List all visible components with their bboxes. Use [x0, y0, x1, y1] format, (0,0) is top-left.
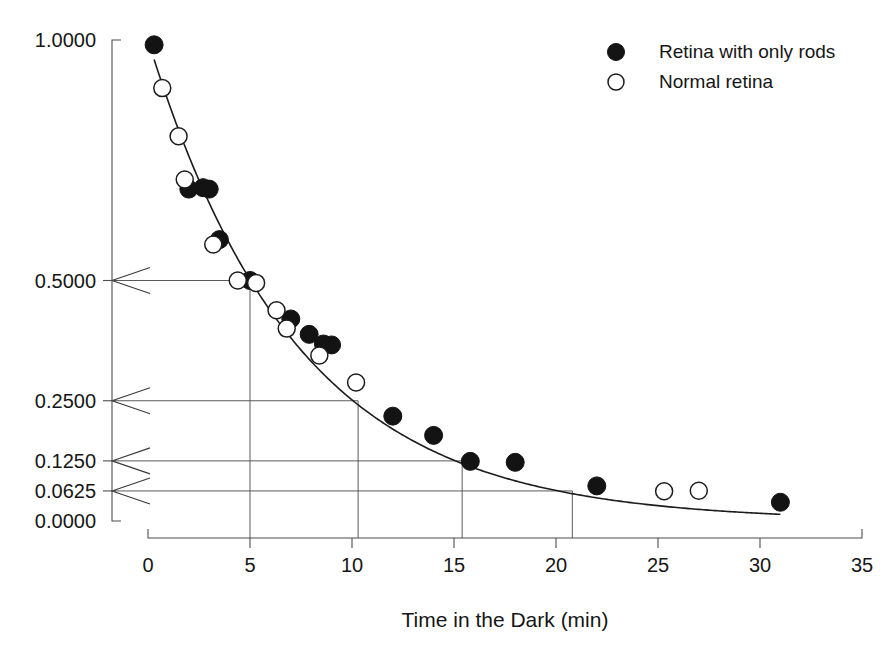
x-axis-tick-label: 15 — [443, 554, 465, 576]
half-life-guide — [112, 388, 358, 538]
half-life-guide — [112, 448, 462, 538]
data-point — [145, 36, 163, 54]
legend-label: Normal retina — [659, 71, 773, 92]
data-point — [588, 477, 606, 495]
legend-open-circle-icon — [608, 74, 624, 90]
legend-entry: Retina with only rods — [608, 41, 836, 62]
data-point — [229, 272, 246, 289]
half-life-guide — [112, 478, 572, 538]
x-axis-tick-label: 20 — [545, 554, 567, 576]
y-axis-tick-label: 0.0000 — [35, 510, 96, 532]
legend-layer: Retina with only rodsNormal retina — [608, 41, 836, 92]
data-point — [771, 493, 789, 511]
data-point — [170, 128, 187, 145]
guide-annotations-layer — [112, 268, 572, 539]
half-life-guide — [112, 268, 250, 539]
data-point — [248, 274, 265, 291]
data-point — [268, 302, 285, 319]
data-point — [205, 236, 222, 253]
x-axis-spine — [148, 529, 862, 538]
y-axis-tick-label: 0.1250 — [35, 450, 96, 472]
data-point — [176, 171, 193, 188]
y-axis-tick-label: 1.0000 — [35, 29, 96, 51]
legend-label: Retina with only rods — [659, 41, 835, 62]
data-point — [278, 320, 295, 337]
data-point — [154, 80, 171, 97]
legend-filled-circle-icon — [608, 44, 625, 61]
data-point — [384, 407, 402, 425]
y-axis-tick-label: 0.2500 — [35, 390, 96, 412]
data-point — [690, 482, 707, 499]
data-point — [348, 374, 365, 391]
x-axis-tick-label: 25 — [647, 554, 669, 576]
x-axis-tick-label: 30 — [749, 554, 771, 576]
legend-entry: Normal retina — [608, 71, 773, 92]
x-axis-tick-label: 10 — [341, 554, 363, 576]
data-point — [656, 483, 673, 500]
data-point — [506, 453, 524, 471]
data-points-layer — [145, 36, 789, 511]
axes-layer — [103, 40, 862, 548]
chart-canvas: Retina with only rodsNormal retina 0.000… — [0, 0, 896, 653]
x-axis-tick-label: 35 — [851, 554, 873, 576]
x-axis-title: Time in the Dark (min) — [402, 608, 609, 631]
data-point — [425, 426, 443, 444]
x-axis-tick-label: 0 — [142, 554, 153, 576]
data-point — [311, 347, 328, 364]
x-axis-tick-label: 5 — [244, 554, 255, 576]
chart-figure: Retina with only rodsNormal retina 0.000… — [0, 0, 896, 653]
data-point — [200, 180, 218, 198]
data-point — [461, 452, 479, 470]
y-axis-tick-label: 0.0625 — [35, 480, 96, 502]
y-axis-tick-label: 0.5000 — [35, 270, 96, 292]
